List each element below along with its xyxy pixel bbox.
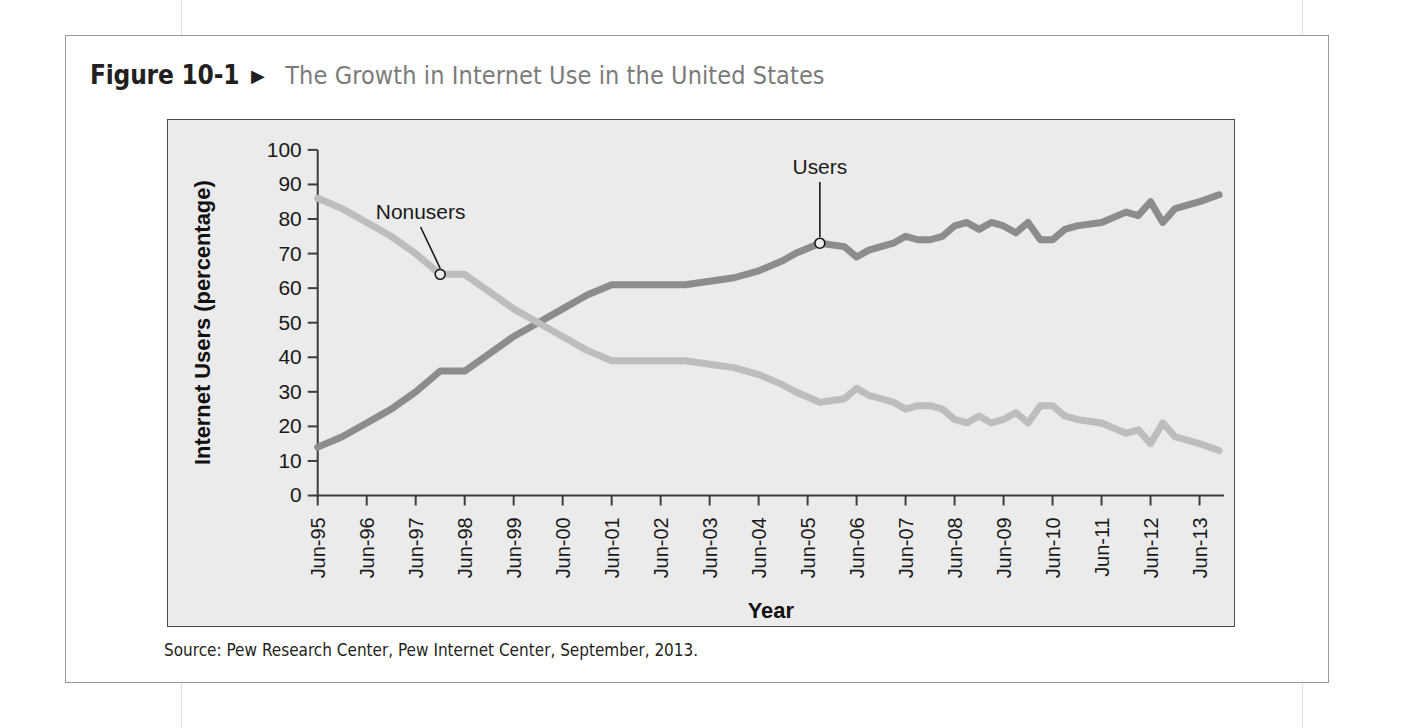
x-axis-tick-label: Jun-00 [552, 517, 574, 578]
data-series-group [318, 195, 1219, 451]
y-axis-title-group: Internet Users (percentage) [190, 180, 215, 465]
annotation-marker-dot [435, 269, 445, 279]
y-axis-tick-label: 70 [278, 242, 301, 265]
figure-number: Figure 10-1 [90, 60, 239, 90]
y-axis-tick-label: 40 [278, 345, 301, 368]
series-line-users [318, 195, 1219, 447]
y-axis-tick-label: 0 [290, 484, 302, 507]
line-chart: Internet Users (percentage) 010203040506… [168, 120, 1234, 626]
y-axis-tick-label: 90 [278, 172, 301, 195]
series-line-nonusers [318, 198, 1219, 450]
y-axis-tick-label: 60 [278, 276, 301, 299]
x-axis-tick-label: Jun-95 [307, 517, 329, 578]
x-axis-tick-label: Jun-97 [405, 517, 427, 578]
figure-container: Figure 10-1 ▶ The Growth in Internet Use… [65, 35, 1329, 683]
annotation-label: Users [793, 155, 848, 178]
figure-caption: Figure 10-1 ▶ The Growth in Internet Use… [90, 60, 825, 90]
x-axis-tick-label: Jun-01 [601, 517, 623, 578]
page-title: The Growth in Internet Use in the United… [285, 61, 824, 90]
x-axis-tick-label: Jun-05 [797, 517, 819, 578]
x-axis-tick-label: Jun-13 [1188, 517, 1210, 578]
x-axis-tick-label: Jun-10 [1042, 517, 1064, 578]
x-axis-title-group: Year [748, 598, 795, 623]
x-axis-tick-label: Jun-04 [748, 517, 770, 578]
y-axis-tick-label: 10 [278, 449, 301, 472]
x-axis-tick-label: Jun-03 [699, 517, 721, 578]
x-axis-tick-label: Jun-98 [454, 517, 476, 578]
y-axis-tick-label: 50 [278, 311, 301, 334]
x-axis-tick-label: Jun-08 [944, 517, 966, 578]
x-axis-tick-label: Jun-02 [650, 517, 672, 578]
x-axis-tick-label: Jun-96 [356, 517, 378, 578]
x-axis-title: Year [748, 598, 795, 623]
y-axis-tick-label: 20 [278, 414, 301, 437]
x-axis-tick-label: Jun-99 [503, 517, 525, 578]
y-axis-tick-label: 100 [267, 138, 302, 161]
source-note: Source: Pew Research Center, Pew Interne… [164, 640, 698, 660]
x-axis-tick-label: Jun-07 [895, 517, 917, 578]
x-axis-tick-label: Jun-11 [1091, 517, 1113, 576]
annotation-label: Nonusers [376, 200, 466, 223]
x-axis-tick-label: Jun-12 [1140, 517, 1162, 578]
y-axis-ticks: 0102030405060708090100 [267, 138, 318, 507]
annotation-marker-dot [815, 238, 825, 248]
x-axis-tick-label: Jun-09 [993, 517, 1015, 578]
y-axis-tick-label: 30 [278, 380, 301, 403]
caption-arrow-icon: ▶ [251, 67, 265, 85]
chart-plot-panel: Internet Users (percentage) 010203040506… [167, 119, 1235, 627]
x-axis-ticks: Jun-95Jun-96Jun-97Jun-98Jun-99Jun-00Jun-… [307, 496, 1234, 579]
x-axis-tick-label: Jun-06 [846, 517, 868, 578]
y-axis-title: Internet Users (percentage) [190, 180, 215, 465]
y-axis-tick-label: 80 [278, 207, 301, 230]
